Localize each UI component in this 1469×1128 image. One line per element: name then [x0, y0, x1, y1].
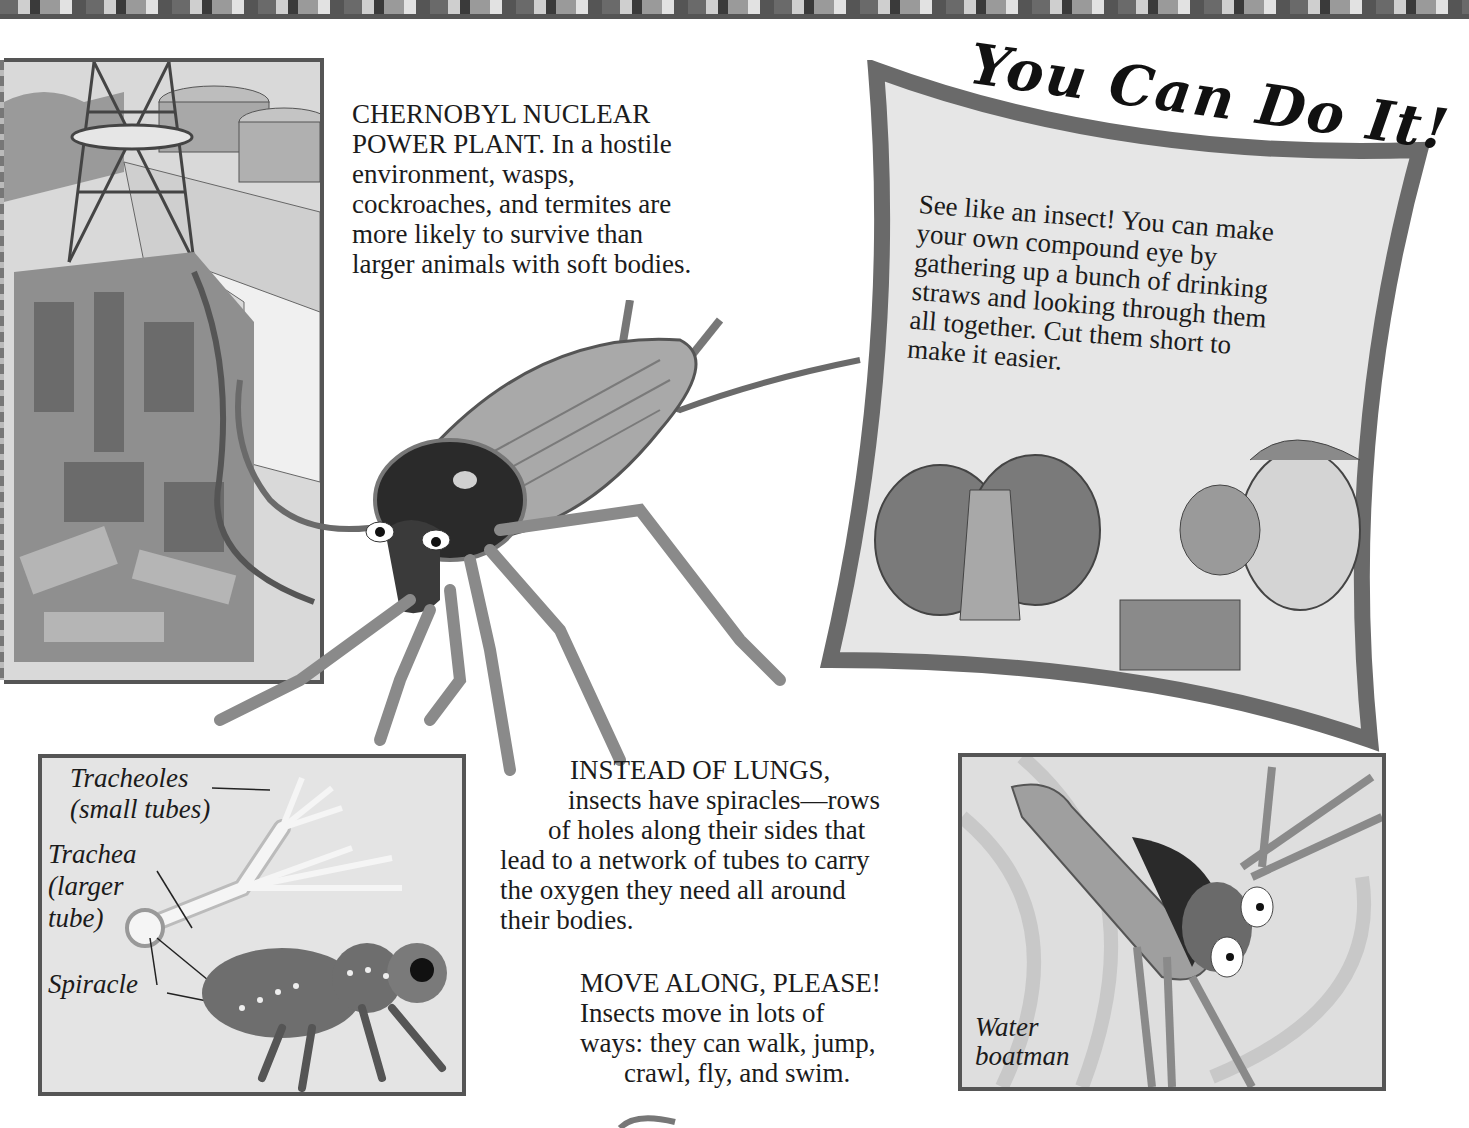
caption-line: lead to a network of tubes to carry: [500, 845, 940, 875]
caption-line: larger animals with soft bodies.: [352, 249, 772, 279]
top-decorative-banner: [0, 0, 1469, 15]
label-spiracle: Spiracle: [48, 970, 138, 999]
chernobyl-caption: CHERNOBYL NUCLEAR POWER PLANT. In a host…: [352, 99, 772, 279]
caption-line: their bodies.: [500, 905, 940, 935]
top-rule-divider: [0, 14, 1469, 19]
caption-line: CHERNOBYL NUCLEAR: [352, 99, 772, 129]
caption-line: cockroaches, and termites are: [352, 189, 772, 219]
caption-line: ways: they can walk, jump,: [580, 1028, 940, 1058]
caption-line: environment, wasps,: [352, 159, 772, 189]
caption-line: POWER PLANT. In a hostile: [352, 129, 772, 159]
decorative-curl: [615, 1112, 695, 1128]
label-tracheoles-sub: (small tubes): [70, 795, 210, 824]
caption-line: the oxygen they need all around: [500, 875, 940, 905]
label-tracheoles: Tracheoles: [70, 764, 189, 793]
label-line: Water: [975, 1013, 1070, 1042]
cockroach-illustration: [160, 300, 880, 820]
caption-line: INSTEAD OF LUNGS,: [500, 755, 940, 785]
caption-line: insects have spiracles—rows: [500, 785, 940, 815]
water-boatman-label: Water boatman: [975, 1013, 1070, 1071]
caption-line: more likely to survive than: [352, 219, 772, 249]
caption-line: MOVE ALONG, PLEASE!: [580, 968, 940, 998]
label-trachea-sub2: tube): [48, 904, 103, 933]
caption-line: crawl, fly, and swim.: [580, 1058, 940, 1088]
label-trachea: Trachea: [48, 840, 137, 869]
you-can-do-it-text: See like an insect! You can make your ow…: [906, 190, 1338, 396]
move-along-caption: MOVE ALONG, PLEASE! Insects move in lots…: [580, 968, 940, 1088]
caption-line: Insects move in lots of: [580, 998, 940, 1028]
label-line: boatman: [975, 1042, 1070, 1071]
label-trachea-sub1: (larger: [48, 872, 124, 901]
caption-line: of holes along their sides that: [500, 815, 940, 845]
lungs-caption: INSTEAD OF LUNGS, insects have spiracles…: [500, 755, 940, 935]
fly-head-illustration: [875, 455, 1100, 620]
